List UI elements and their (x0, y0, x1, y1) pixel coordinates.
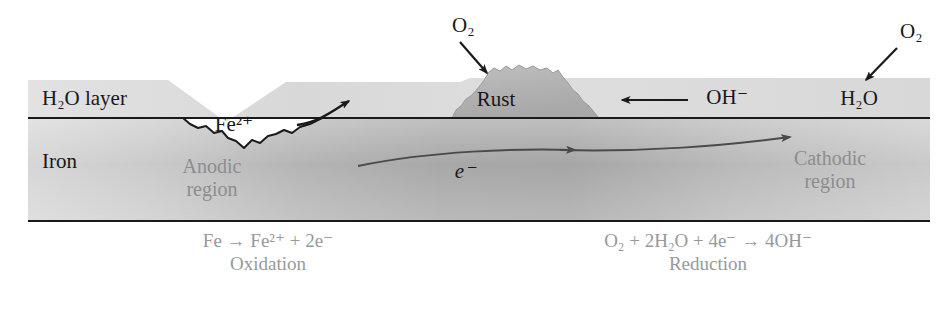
cathodic-equation: O₂ + 2H₂O + 4e⁻ → 4OH⁻ (604, 230, 812, 251)
oh-minus-label: OH⁻ (706, 85, 747, 109)
anodic-region-label-line2: region (186, 178, 237, 201)
iron-layer-group (28, 118, 930, 221)
iron-layer-sheen (28, 118, 930, 221)
anodic-equation-name: Oxidation (230, 253, 306, 274)
o2-right-label: O₂ (900, 19, 923, 43)
o2-left-arrow (460, 42, 487, 73)
water-layer-label: H₂O layer (42, 86, 127, 110)
iron-layer-label: Iron (42, 149, 77, 173)
o2-left-label: O₂ (452, 13, 475, 37)
corrosion-cross-section-svg: H₂O layer Iron O₂ O₂ Rust Fe²⁺ (0, 0, 952, 309)
fe2plus-label: Fe²⁺ (215, 112, 253, 136)
cathodic-region-label-line2: region (804, 170, 855, 193)
corrosion-diagram-figure: H₂O layer Iron O₂ O₂ Rust Fe²⁺ (0, 0, 952, 309)
cathodic-equation-name: Reduction (669, 253, 748, 274)
cathodic-region-label-line1: Cathodic (794, 147, 866, 169)
rust-label: Rust (477, 87, 516, 111)
electron-label: e⁻ (455, 159, 477, 183)
h2o-label: H₂O (840, 86, 878, 110)
o2-right-arrow (866, 48, 897, 80)
anodic-equation: Fe → Fe²⁺ + 2e⁻ (203, 230, 333, 251)
anodic-region-label-line1: Anodic (183, 155, 242, 177)
equations-group: Fe → Fe²⁺ + 2e⁻ Oxidation O₂ + 2H₂O + 4e… (203, 230, 812, 274)
